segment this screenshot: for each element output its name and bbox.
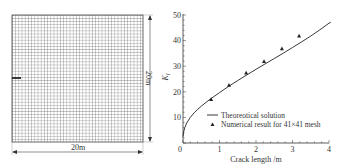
triangle-marker-icon [244, 71, 248, 75]
x-tick-label: 0 [178, 145, 182, 154]
legend-label-numerical: Numerical result for 41×41 mesh [221, 120, 321, 129]
legend-triangle-icon [211, 123, 215, 127]
y-tick-label: 30 [173, 62, 181, 71]
arrow-left-icon [12, 150, 17, 154]
height-label: 20m [144, 71, 153, 86]
y-axis-title: KI [161, 72, 171, 81]
y-tick-label: 50 [173, 11, 181, 20]
x-tick-label: 1 [218, 145, 222, 154]
x-tick-label: 2 [254, 145, 258, 154]
legend-label-theory: Theoreotical solution [221, 111, 285, 120]
y-tick-label: 10 [173, 113, 181, 122]
width-label: 20m [71, 143, 86, 152]
legend: Theoreotical solution Numerical result f… [207, 111, 321, 130]
triangle-marker-icon [297, 34, 301, 38]
x-tick-label: 3 [291, 145, 295, 154]
y-ticks: 1020304050 [173, 11, 186, 143]
mesh-panel: 20m 20m [12, 15, 153, 155]
chart-panel: 1020304050 01234 KI Crack length /m Theo… [161, 11, 331, 164]
arrow-up-icon [148, 15, 152, 20]
triangle-marker-icon [280, 46, 284, 50]
figure-canvas: 20m 20m 1020304050 01234 KI Crack length… [0, 0, 340, 166]
triangle-marker-icon [262, 59, 266, 63]
y-tick-label: 20 [173, 88, 181, 97]
x-ticks: 01234 [178, 140, 331, 154]
arrow-right-icon [138, 150, 143, 154]
y-tick-label: 40 [173, 36, 181, 45]
mesh-grid [12, 15, 143, 142]
x-axis-title: Crack length /m [230, 155, 282, 164]
arrow-down-icon [148, 137, 152, 142]
x-tick-label: 4 [327, 145, 331, 154]
